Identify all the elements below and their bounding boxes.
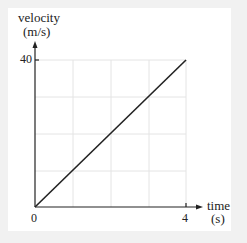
y-axis-label: velocity (18, 12, 60, 24)
x-tick-4: 4 (182, 212, 188, 224)
y-tick-40: 40 (20, 53, 32, 65)
x-axis-unit: (s) (211, 213, 225, 225)
origin-tick-0: 0 (31, 212, 37, 224)
y-axis-unit: (m/s) (23, 26, 50, 38)
